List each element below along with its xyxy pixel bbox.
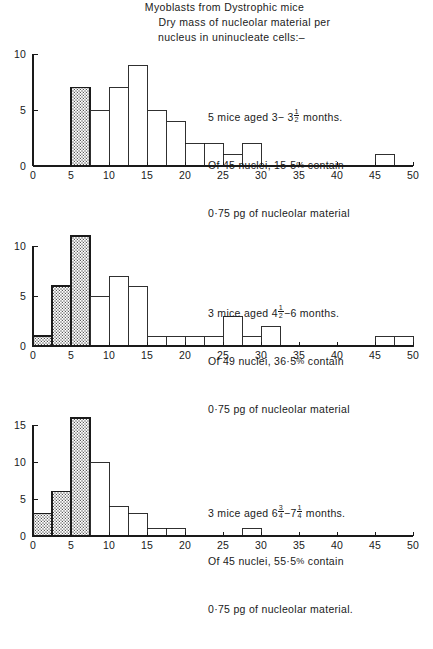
x-tick-label: 0 xyxy=(30,539,36,551)
title-line-1: Myoblasts from Dystrophic mice xyxy=(0,0,433,15)
figure-root: Myoblasts from Dystrophic mice Dry mass … xyxy=(0,0,433,649)
x-tick-label: 0 xyxy=(30,349,36,361)
histogram-panel-2: 051015202530354045500510 3 mice aged 412… xyxy=(0,228,433,368)
y-tick-label: 0 xyxy=(20,340,26,352)
x-tick-label: 10 xyxy=(103,539,115,551)
y-tick-label: 5 xyxy=(20,493,26,505)
histogram-bar xyxy=(166,529,185,536)
y-tick-label: 10 xyxy=(14,240,26,252)
x-tick-label: 5 xyxy=(68,349,74,361)
panel-1-annotation: 5 mice aged 3− 312 months. Of 45 nuclei,… xyxy=(208,76,350,253)
histogram-bar xyxy=(109,276,128,346)
x-tick-label: 5 xyxy=(68,169,74,181)
panel-1-annotation-line-2: Of 45 nuclei, 15·5% contain xyxy=(208,157,350,173)
x-tick-label: 20 xyxy=(179,539,191,551)
panel-3-annotation-line-1: 3 mice aged 634−714 months. xyxy=(208,504,353,521)
y-tick-label: 15 xyxy=(14,419,26,431)
figure-title: Myoblasts from Dystrophic mice Dry mass … xyxy=(0,0,433,45)
title-line-2: Dry mass of nucleolar material per xyxy=(0,15,433,30)
histogram-bar xyxy=(185,336,204,346)
histogram-bar xyxy=(33,336,52,346)
x-tick-label: 50 xyxy=(407,169,419,181)
x-tick-label: 15 xyxy=(141,349,153,361)
fraction-half: 12 xyxy=(294,108,299,123)
histogram-bar xyxy=(147,110,166,166)
panel-3-annotation-line-3: 0·75 pg of nucleolar material. xyxy=(208,601,353,617)
histogram-bar xyxy=(128,514,147,536)
x-tick-label: 20 xyxy=(179,349,191,361)
y-tick-label: 0 xyxy=(20,160,26,172)
x-tick-label: 5 xyxy=(68,539,74,551)
histogram-panel-1: 051015202530354045500510 5 mice aged 3− … xyxy=(0,48,433,188)
x-tick-label: 20 xyxy=(179,169,191,181)
histogram-bar xyxy=(52,492,71,536)
histogram-bar xyxy=(52,286,71,346)
histogram-bar xyxy=(147,336,166,346)
histogram-bar xyxy=(166,336,185,346)
y-tick-label: 5 xyxy=(20,104,26,116)
x-tick-label: 45 xyxy=(369,539,381,551)
x-tick-label: 15 xyxy=(141,169,153,181)
histogram-bar xyxy=(109,507,128,537)
histogram-bar xyxy=(375,155,394,166)
histogram-bar xyxy=(71,418,90,536)
histogram-bar xyxy=(71,236,90,346)
panel-2-annotation-line-2: Of 49 nuclei, 36·5% contain xyxy=(208,353,350,369)
histogram-bar xyxy=(90,462,109,536)
x-tick-label: 0 xyxy=(30,169,36,181)
histogram-bar xyxy=(128,65,147,166)
histogram-bar xyxy=(166,121,185,166)
y-tick-label: 5 xyxy=(20,290,26,302)
x-tick-label: 50 xyxy=(407,349,419,361)
panel-3-annotation: 3 mice aged 634−714 months. Of 45 nuclei… xyxy=(208,472,353,649)
fraction-three-quarters: 34 xyxy=(278,504,283,519)
x-tick-label: 45 xyxy=(369,349,381,361)
x-tick-label: 10 xyxy=(103,169,115,181)
y-axis: 0510 xyxy=(14,240,38,352)
panel-1-annotation-line-1: 5 mice aged 3− 312 months. xyxy=(208,108,350,125)
panel-2-annotation-line-1: 3 mice aged 412−6 months. xyxy=(208,304,350,321)
fraction-quarter: 14 xyxy=(297,504,302,519)
histogram-bar xyxy=(71,88,90,166)
x-tick-label: 50 xyxy=(407,539,419,551)
fraction-half: 12 xyxy=(278,304,283,319)
x-tick-label: 45 xyxy=(369,169,381,181)
histogram-bar xyxy=(128,286,147,346)
y-tick-label: 10 xyxy=(14,48,26,60)
x-tick-label: 10 xyxy=(103,349,115,361)
y-tick-label: 10 xyxy=(14,456,26,468)
y-tick-label: 0 xyxy=(20,530,26,542)
panel-3-annotation-line-2: Of 45 nuclei, 55·5% contain xyxy=(208,553,353,569)
histogram-bar xyxy=(394,336,413,346)
histogram-bar xyxy=(185,144,204,166)
histogram-bar xyxy=(375,336,394,346)
histogram-bar xyxy=(109,88,128,166)
histogram-bar xyxy=(90,296,109,346)
histogram-bar xyxy=(90,110,109,166)
title-line-3: nucleus in uninucleate cells:– xyxy=(0,30,433,45)
x-tick-label: 15 xyxy=(141,539,153,551)
panel-1-annotation-line-3: 0·75 pg of nucleolar material xyxy=(208,205,350,221)
y-axis: 0510 xyxy=(14,48,38,172)
histogram-panel-3: 05101520253035404550051015 3 mice aged 6… xyxy=(0,408,433,558)
histogram-bar xyxy=(147,529,166,536)
histogram-bar xyxy=(33,514,52,536)
